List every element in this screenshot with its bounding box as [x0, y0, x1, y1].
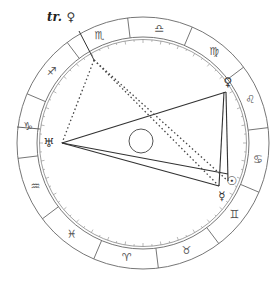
degree-tick: [43, 169, 45, 170]
degree-tick: [116, 43, 117, 45]
sign-cancer-icon: ♋: [253, 153, 263, 166]
center-circle: [129, 129, 153, 153]
degree-tick: [215, 70, 216, 71]
sign-divider: [207, 228, 219, 244]
degree-tick: [46, 108, 49, 109]
sign-libra-icon: ♎: [154, 22, 164, 35]
degree-tick: [84, 226, 85, 228]
degree-tick: [177, 237, 178, 240]
sign-gemini-icon: ♊: [229, 208, 239, 221]
sign-capricorn-icon: ♑: [23, 120, 33, 133]
degree-tick: [237, 177, 240, 178]
sign-sagittarius-icon: ♐: [47, 65, 57, 78]
degree-tick: [76, 220, 78, 223]
sign-divider: [156, 248, 158, 268]
degree-tick: [49, 186, 51, 187]
degree-tick: [108, 237, 109, 240]
degree-tick: [70, 215, 71, 216]
degree-tick: [58, 84, 60, 85]
degree-tick: [91, 230, 93, 233]
sign-divider: [67, 42, 79, 58]
degree-tick: [241, 160, 244, 161]
degree-tick: [53, 193, 56, 195]
degree-tick: [230, 193, 233, 195]
natal-chart: ♈♉♊♋♌♍♎♏♐♑♒♓ ♅ ♀ ☉ ☿ tr. ♀: [0, 0, 280, 283]
sign-divider: [42, 207, 58, 219]
degree-tick: [84, 58, 85, 60]
degree-tick: [169, 241, 170, 243]
degree-tick: [241, 169, 243, 170]
degree-tick: [241, 125, 244, 126]
degree-tick: [99, 235, 100, 237]
transit-label: tr.: [47, 10, 62, 24]
sign-leo-icon: ♌: [246, 93, 256, 106]
degree-tick: [41, 125, 44, 126]
sign-divider: [184, 27, 192, 45]
sign-divider: [128, 18, 130, 38]
degree-tick: [237, 108, 240, 109]
degree-tick: [64, 207, 67, 209]
sign-divider: [94, 241, 102, 259]
degree-tick: [186, 49, 187, 51]
degree-tick: [41, 160, 44, 161]
degree-tick: [46, 177, 49, 178]
degree-tick: [49, 99, 51, 100]
degree-tick: [241, 116, 243, 117]
degree-tick: [116, 241, 117, 243]
degree-tick: [201, 226, 202, 228]
degree-tick: [125, 241, 126, 244]
venus-icon: ♀: [224, 75, 233, 89]
transit-venus-pointer: [79, 31, 94, 60]
degree-tick: [215, 215, 216, 216]
sign-scorpio-icon: ♏: [95, 29, 105, 42]
degree-tick: [201, 58, 202, 60]
aspect-venus-sun: [226, 92, 228, 181]
transit-venus-icon: ♀: [67, 10, 76, 24]
degree-tick: [125, 41, 126, 44]
degree-tick: [108, 46, 109, 49]
degree-tick: [235, 99, 237, 100]
transit-mercury: [94, 60, 219, 186]
sign-divider: [18, 156, 38, 158]
transit-sun: [94, 60, 228, 181]
degree-tick: [169, 43, 170, 45]
degree-tick: [43, 116, 45, 117]
degree-tick: [220, 207, 223, 209]
uranus-icon: ♅: [44, 136, 55, 150]
degree-tick: [70, 70, 71, 71]
degree-tick: [207, 64, 209, 67]
sign-pisces-icon: ♓: [67, 228, 77, 241]
degree-tick: [53, 91, 56, 93]
sign-virgo-icon: ♍: [209, 45, 219, 58]
degree-tick: [193, 53, 195, 56]
degree-tick: [186, 235, 187, 237]
sign-divider: [241, 184, 259, 192]
sign-aries-icon: ♈: [122, 251, 132, 264]
sign-taurus-icon: ♉: [182, 244, 192, 257]
degree-tick: [207, 220, 209, 223]
sign-divider: [27, 94, 45, 102]
degree-tick: [58, 201, 60, 202]
degree-tick: [160, 41, 161, 44]
degree-tick: [177, 46, 178, 49]
transit-aspects: [62, 60, 228, 186]
degree-tick: [99, 49, 100, 51]
sun-icon: ☉: [227, 174, 238, 188]
degree-tick: [226, 201, 228, 202]
degree-tick: [160, 241, 161, 244]
mercury-icon: ☿: [218, 189, 225, 203]
degree-tick: [230, 91, 233, 93]
degree-tick: [64, 76, 67, 78]
sign-aquarius-icon: ♒: [31, 180, 41, 193]
degree-tick: [76, 64, 78, 67]
degree-tick: [220, 76, 223, 78]
sign-divider: [248, 128, 268, 130]
degree-tick: [193, 230, 195, 233]
